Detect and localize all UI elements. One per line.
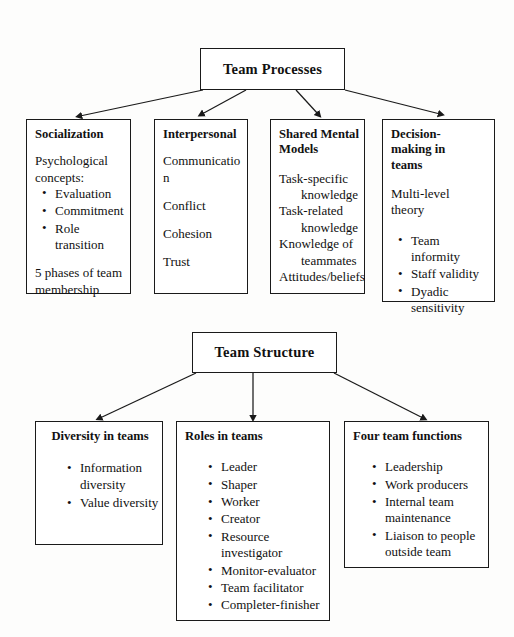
- list-item: Completer-finisher: [201, 597, 329, 613]
- diagram-canvas: Team Processes Socialization Psychologic…: [0, 0, 514, 637]
- node-title-team-structure: Team Structure: [215, 344, 315, 361]
- list-item: Team facilitator: [201, 580, 329, 596]
- node-title-roles-in-teams: Roles in teams: [185, 429, 329, 444]
- list-item: Leadership: [365, 459, 488, 475]
- interpersonal-item: Communication: [163, 153, 245, 186]
- list-item: Staff validity: [391, 266, 494, 282]
- node-decision-making-in-teams[interactable]: Decision-making in teams Multi-level the…: [382, 119, 495, 302]
- list-item: Team informity: [391, 233, 473, 266]
- interpersonal-item: Conflict: [163, 198, 247, 214]
- node-title-interpersonal: Interpersonal: [163, 127, 247, 142]
- node-four-team-functions[interactable]: Four team functions Leadership Work prod…: [344, 421, 489, 568]
- node-team-processes[interactable]: Team Processes: [200, 48, 345, 90]
- list-item: Shaper: [201, 477, 329, 493]
- arrow-to-socialization: [80, 90, 203, 116]
- shared-mental-models-item: Task-specific knowledge: [279, 171, 364, 204]
- list-item: Internal team maintenance: [365, 494, 481, 527]
- list-item: Role transition: [35, 221, 130, 254]
- list-item: Evaluation: [35, 186, 130, 202]
- node-title-decision-making-in-teams: Decision-making in teams: [391, 127, 461, 173]
- functions-bullet-list: Leadership Work producers Internal team …: [353, 459, 488, 560]
- diversity-bullet-list: Information diversity Value diversity: [44, 460, 162, 511]
- arrow-to-four-team-functions: [334, 373, 423, 418]
- socialization-bullet-list: Evaluation Commitment Role transition: [35, 186, 130, 254]
- arrow-to-diversity-in-teams: [100, 373, 196, 418]
- roles-bullet-list: Leader Shaper Worker Creator Resource in…: [185, 459, 329, 613]
- socialization-lead: Psychological concepts:: [35, 153, 130, 186]
- arrow-to-interpersonal: [202, 90, 246, 114]
- list-item: Dyadic sensitivity: [391, 284, 473, 317]
- arrow-to-shared-mental-models: [296, 90, 318, 114]
- node-title-socialization: Socialization: [35, 127, 130, 142]
- list-item: Monitor-evaluator: [201, 563, 329, 579]
- decision-making-bullet-list: Team informity Staff validity Dyadic sen…: [391, 233, 494, 317]
- spacer: [35, 254, 130, 265]
- list-item: Resource investigator: [201, 529, 297, 562]
- node-title-four-team-functions: Four team functions: [353, 429, 488, 444]
- decision-making-lead: Multi-level theory: [391, 186, 463, 219]
- node-interpersonal[interactable]: Interpersonal Communication Conflict Coh…: [154, 119, 248, 294]
- list-item: Value diversity: [60, 495, 162, 511]
- list-item: Commitment: [35, 203, 130, 219]
- interpersonal-item: Cohesion: [163, 226, 247, 242]
- node-roles-in-teams[interactable]: Roles in teams Leader Shaper Worker Crea…: [176, 421, 330, 621]
- node-title-diversity-in-teams: Diversity in teams: [44, 429, 162, 444]
- node-title-shared-mental-models: Shared Mental Models: [279, 127, 364, 158]
- shared-mental-models-item: Knowledge of teammates: [279, 236, 364, 269]
- socialization-footer: 5 phases of team membership: [35, 265, 130, 298]
- list-item: Work producers: [365, 477, 488, 493]
- node-shared-mental-models[interactable]: Shared Mental Models Task-specific knowl…: [270, 119, 365, 294]
- arrow-to-decision-making: [345, 90, 440, 114]
- shared-mental-models-item: Attitudes/beliefs: [279, 269, 364, 285]
- list-item: Information diversity: [60, 460, 164, 493]
- arrow-group-team-processes: [80, 90, 440, 116]
- node-diversity-in-teams[interactable]: Diversity in teams Information diversity…: [35, 421, 163, 545]
- node-socialization[interactable]: Socialization Psychological concepts: Ev…: [26, 119, 131, 294]
- list-item: Leader: [201, 459, 329, 475]
- arrow-group-team-structure: [100, 373, 423, 418]
- list-item: Liaison to people outside team: [365, 528, 493, 561]
- node-team-structure[interactable]: Team Structure: [192, 332, 337, 373]
- list-item: Creator: [201, 511, 329, 527]
- node-title-team-processes: Team Processes: [223, 61, 322, 78]
- interpersonal-item: Trust: [163, 254, 247, 270]
- list-item: Worker: [201, 494, 329, 510]
- shared-mental-models-item: Task-related knowledge: [279, 203, 364, 236]
